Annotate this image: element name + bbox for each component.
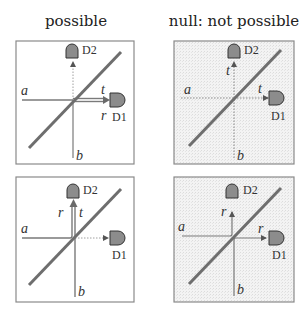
detector-d2-icon (228, 44, 240, 58)
label-r-vertical: r (221, 204, 227, 219)
detector-d1-icon (110, 231, 125, 245)
label-d1: D1 (112, 248, 127, 262)
detector-d1-icon (269, 91, 284, 105)
label-a: a (184, 82, 191, 97)
label-a: a (21, 221, 28, 236)
detector-d1-icon (269, 231, 284, 245)
beam-splitter-diagram: a b D2 D1 t r a b D2 D1 t t a b (0, 0, 308, 320)
label-b: b (76, 148, 83, 163)
label-d2: D2 (244, 43, 259, 57)
label-r: r (58, 205, 64, 220)
label-d2: D2 (82, 43, 97, 57)
label-r-horizontal: r (258, 221, 264, 236)
detector-d2-icon (67, 184, 79, 198)
detector-d1-icon (110, 93, 125, 107)
panel-top-left: a b D2 D1 t r (16, 41, 134, 164)
panel-bottom-right: a b D2 D1 r r (174, 177, 294, 302)
label-d2: D2 (243, 183, 258, 197)
label-d1: D1 (271, 109, 286, 123)
panel-bottom-left: a b D2 D1 r t (16, 177, 134, 302)
label-b: b (237, 282, 244, 297)
label-d1: D1 (272, 248, 287, 262)
detector-d2-icon (226, 184, 238, 198)
label-a: a (178, 219, 185, 234)
label-a: a (21, 83, 28, 98)
label-b: b (237, 148, 244, 163)
label-d2: D2 (83, 183, 98, 197)
detector-d2-icon (66, 44, 78, 58)
label-d1: D1 (112, 110, 127, 124)
label-r: r (101, 108, 107, 123)
panel-top-right: a b D2 D1 t t (174, 41, 294, 164)
label-b: b (78, 284, 85, 299)
